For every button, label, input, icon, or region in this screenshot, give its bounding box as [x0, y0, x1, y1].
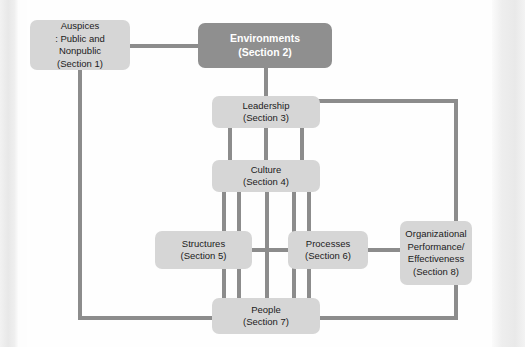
node-organizational-performance-effectiveness[interactable]: Organizational Performance/ Effectivenes…: [400, 221, 472, 285]
node-orgperf-line-1: Organizational: [405, 228, 466, 241]
node-auspices[interactable]: Auspices : Public and Nonpublic (Section…: [30, 20, 130, 70]
connector-structures-processes: [252, 248, 288, 252]
node-structures[interactable]: Structures (Section 5): [155, 231, 252, 269]
node-leadership-line-1: Leadership: [242, 100, 289, 113]
node-processes-line-2: (Section 6): [305, 250, 351, 263]
page-edge-band-left-inner: [18, 0, 27, 347]
node-structures-line-1: Structures: [182, 238, 225, 251]
node-auspices-line-3: (Section 1): [57, 58, 103, 71]
node-auspices-line-1: Auspices: [61, 20, 100, 33]
node-people-line-2: (Section 7): [243, 316, 289, 329]
node-orgperf-line-2: Performance/: [407, 241, 464, 254]
node-leadership-line-2: (Section 3): [243, 112, 289, 125]
node-structures-line-2: (Section 5): [181, 250, 227, 263]
connector-leadership-people-horizontal: [318, 316, 458, 320]
connector-auspices-people-horizontal: [78, 316, 218, 320]
node-orgperf-line-3: Effectiveness: [408, 253, 464, 266]
connector-leadership-culture-left: [228, 128, 232, 160]
diagram-canvas: Auspices : Public and Nonpublic (Section…: [0, 0, 525, 347]
connector-environments-leadership: [264, 68, 268, 96]
node-people[interactable]: People (Section 7): [212, 298, 320, 334]
node-processes[interactable]: Processes (Section 6): [288, 231, 368, 269]
page-edge-band-left: [0, 0, 18, 347]
node-environments[interactable]: Environments (Section 2): [198, 23, 332, 68]
connector-leadership-people-vertical: [454, 99, 458, 320]
node-culture[interactable]: Culture (Section 4): [212, 160, 320, 192]
node-environments-line-1: Environments: [230, 32, 300, 46]
page-edge-band-right: [492, 0, 525, 347]
connector-leadership-right-horizontal: [308, 99, 458, 103]
connector-processes-organizational-performance: [368, 248, 400, 252]
node-processes-line-1: Processes: [306, 238, 350, 251]
node-auspices-line-2: : Public and Nonpublic: [35, 33, 125, 58]
node-leadership[interactable]: Leadership (Section 3): [212, 96, 320, 128]
node-culture-line-2: (Section 4): [243, 176, 289, 189]
node-people-line-1: People: [251, 304, 281, 317]
connector-auspices-environments: [130, 44, 198, 48]
connector-leadership-culture-right: [300, 128, 304, 160]
connector-auspices-people-vertical: [78, 70, 82, 320]
node-environments-line-2: (Section 2): [238, 46, 292, 60]
node-orgperf-line-4: (Section 8): [413, 266, 459, 279]
node-culture-line-1: Culture: [251, 164, 282, 177]
connector-leadership-culture-center: [264, 128, 268, 160]
